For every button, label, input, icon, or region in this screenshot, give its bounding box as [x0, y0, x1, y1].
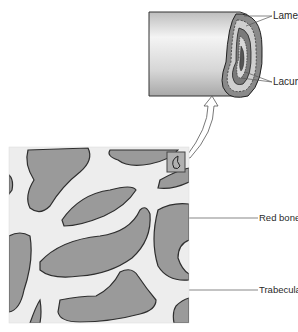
spongy-bone-diagram: [0, 0, 298, 332]
trabecula-magnified: [149, 12, 262, 97]
label-red-bone-marrow: Red bone marrow: [259, 213, 298, 223]
label-lamellae: Lamellae: [273, 11, 298, 21]
magnification-arrow-icon: [186, 96, 218, 158]
label-lacunae: Lacunae: [273, 77, 298, 87]
spongy-bone-section: [9, 147, 189, 323]
label-trabeculae: Trabeculae: [259, 285, 298, 295]
